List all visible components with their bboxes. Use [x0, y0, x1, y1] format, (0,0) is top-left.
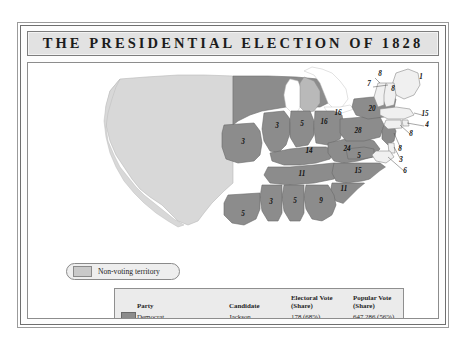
header-popular-vote: Popular Vote (Share): [353, 294, 395, 311]
state-louisiana: [224, 193, 260, 225]
results-table-panel: Party Candidate Electoral Vote (Share) P…: [114, 288, 404, 319]
state-vote-label: 24: [342, 145, 351, 153]
state-connecticut: [384, 120, 402, 129]
page-title: THE PRESIDENTIAL ELECTION OF 1828: [28, 32, 438, 55]
non-voting-territory-region: [106, 75, 233, 225]
election-map-figure: THE PRESIDENTIAL ELECTION OF 1828: [17, 22, 449, 328]
row-party-democrat: Democrat: [137, 311, 229, 319]
state-maryland-east: [372, 151, 394, 163]
header-popular-line1: Popular Vote: [353, 294, 395, 302]
state-vote-label: 20: [367, 105, 376, 113]
state-vote-label: 4: [424, 121, 429, 129]
header-key: [121, 294, 137, 311]
row-candidate-jackson: Jackson: [229, 311, 291, 319]
map-panel: 1887154820836281655331614241115119535 No…: [27, 62, 439, 319]
header-electoral-line1: Electoral Vote: [291, 294, 353, 302]
state-massachusetts: [380, 107, 414, 119]
state-vote-label: 5: [300, 120, 304, 128]
title-bar: THE PRESIDENTIAL ELECTION OF 1828: [27, 31, 439, 56]
state-vote-label: 16: [334, 109, 342, 117]
state-pennsylvania: [340, 117, 384, 141]
results-table: Party Candidate Electoral Vote (Share) P…: [121, 294, 395, 319]
state-vote-label: 3: [240, 138, 245, 146]
state-vote-label: 3: [268, 198, 273, 206]
state-vote-label: 8: [391, 85, 395, 93]
state-vote-label: 6: [403, 167, 407, 175]
header-party: Party: [137, 294, 229, 311]
state-vote-label: 15: [421, 110, 429, 118]
state-vote-label: 11: [299, 170, 306, 178]
state-vote-label: 8: [378, 70, 382, 78]
state-vote-label: 14: [305, 147, 313, 155]
table-header-row: Party Candidate Electoral Vote (Share) P…: [121, 294, 395, 311]
lake-michigan-water: [284, 79, 302, 113]
state-vote-label: 5: [293, 197, 297, 205]
header-candidate: Candidate: [229, 294, 291, 311]
header-electoral-line2: (Share): [291, 302, 353, 310]
non-voting-territory-swatch: [73, 266, 92, 277]
state-vote-label: 3: [274, 122, 279, 130]
state-vote-label: 16: [320, 118, 328, 126]
state-vote-label: 8: [409, 130, 413, 138]
header-electoral-vote: Electoral Vote (Share): [291, 294, 353, 311]
row-key-democrat: [121, 311, 137, 319]
state-vote-label: 1: [419, 73, 423, 81]
non-voting-territory-label: Non-voting territory: [98, 267, 160, 276]
non-voting-territory-legend: Non-voting territory: [66, 263, 180, 280]
state-vote-label: 9: [319, 197, 323, 205]
state-vote-label: 28: [353, 127, 362, 135]
state-vote-label: 5: [357, 152, 361, 160]
state-vote-label: 11: [341, 185, 348, 193]
us-election-map: 1887154820836281655331614241115119535: [28, 63, 438, 319]
state-vote-label: 8: [398, 145, 402, 153]
democrat-swatch: [121, 312, 136, 319]
row-popular-democrat: 647,286 (56%): [353, 311, 395, 319]
state-vote-label: 5: [241, 210, 245, 218]
state-vote-label: 3: [398, 156, 403, 164]
state-indiana: [290, 111, 314, 147]
state-illinois: [262, 111, 290, 153]
header-popular-line2: (Share): [353, 302, 395, 310]
state-vote-label: 15: [354, 167, 362, 175]
table-row: Democrat Jackson 178 (68%) 647,286 (56%): [121, 311, 395, 319]
state-vote-label: 7: [367, 80, 371, 88]
row-electoral-democrat: 178 (68%): [291, 311, 353, 319]
